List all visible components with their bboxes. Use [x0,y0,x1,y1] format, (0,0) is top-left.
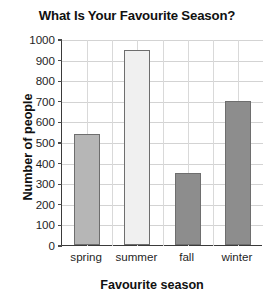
x-axis-title: Favourite season [38,278,266,292]
y-axis-tick-mark [58,60,62,61]
y-axis-tick-label: 500 [3,137,55,149]
y-axis-tick-mark [58,101,62,102]
y-axis-tick-mark [58,184,62,185]
x-axis-tick-label-winter: winter [197,250,274,263]
plot-area [61,40,262,246]
y-axis-tick-mark [58,245,62,246]
y-axis-tick-mark [58,81,62,82]
bar-winter [225,101,251,245]
bar-fall [175,173,201,245]
bar-summer [124,50,150,245]
gridline-vertical [163,40,164,246]
y-axis-tick-mark [58,122,62,123]
y-axis-tick-label: 800 [3,75,55,87]
y-axis-tick-label: 400 [3,158,55,170]
y-axis-tick-mark [58,142,62,143]
gridline-vertical [112,40,113,246]
y-axis-tick-mark [58,225,62,226]
y-axis-tick-label: 600 [3,116,55,128]
bar-spring [74,134,100,245]
y-axis-tick-label: 300 [3,178,55,190]
y-axis-tick-mark [58,163,62,164]
y-axis-tick-mark [58,204,62,205]
gridline-vertical [213,40,214,246]
y-axis-tick-label: 700 [3,96,55,108]
y-axis-tick-label: 1000 [3,34,55,46]
y-axis-tick-label: 200 [3,199,55,211]
bar-chart-figure: What Is Your Favourite Season? Number of… [0,0,274,303]
y-axis-tick-label: 900 [3,55,55,67]
y-axis-tick-mark [58,39,62,40]
chart-title: What Is Your Favourite Season? [0,8,274,23]
y-axis-tick-label: 100 [3,219,55,231]
